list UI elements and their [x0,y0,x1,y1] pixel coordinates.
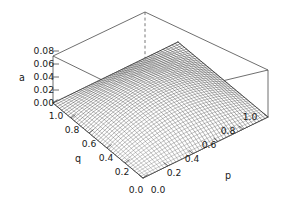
z-axis-tick-label: 0.02 [34,84,54,95]
z-axis-tick-labels: 0.080.060.040.020.00 [34,45,55,108]
q-axis-title: q [75,153,81,164]
surface-mesh [53,42,268,178]
p-axis-tick-label: 0.2 [167,167,182,178]
q-axis-tick-label: 0.4 [99,152,114,163]
z-axis-tick-label: 0.00 [34,97,55,108]
z-axis-tick-label: 0.04 [34,71,55,82]
z-axis-tick-label: 0.08 [34,45,55,56]
p-axis-tick-label: 0.8 [221,125,236,136]
q-axis-tick-label: 0.0 [129,184,144,195]
surface-plot-figure: 0.080.060.040.020.00 1.00.80.60.40.20.0 … [0,0,289,213]
z-axis-title: a [19,72,25,83]
z-axis-tick-label: 0.06 [34,58,55,69]
p-axis-tick-label: 0.6 [202,139,217,150]
plot-canvas: 0.080.060.040.020.00 1.00.80.60.40.20.0 … [0,0,289,213]
q-axis-tick-label: 0.2 [115,166,130,177]
p-axis-tick-label: 0.0 [151,184,166,195]
p-axis-tick-label: 1.0 [243,111,258,122]
p-axis-tick-label: 0.4 [185,153,200,164]
q-axis-tick-label: 0.8 [65,124,80,135]
p-axis-title: p [225,170,231,181]
q-axis-tick-label: 1.0 [49,110,64,121]
q-axis-tick-label: 0.6 [82,138,97,149]
